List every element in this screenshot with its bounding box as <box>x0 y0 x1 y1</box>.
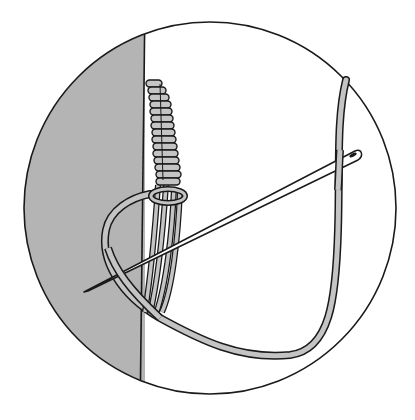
stitch-illustration <box>0 0 415 420</box>
thread-through-eye <box>338 150 340 190</box>
wrapped-bar-stitches <box>146 80 181 185</box>
